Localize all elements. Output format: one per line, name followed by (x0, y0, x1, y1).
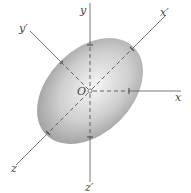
z-axis-outer (16, 133, 48, 165)
ellipsoid-diagram: O y z′ x x′ z y′ (0, 0, 191, 193)
label-z-prime: z′ (84, 181, 94, 193)
label-x-prime: x′ (160, 6, 169, 19)
origin-marker (88, 89, 92, 93)
label-z: z (10, 162, 17, 175)
x-prime-axis-outer (132, 15, 166, 49)
y-prime-axis-outer (30, 31, 61, 62)
label-y-prime: y′ (18, 22, 28, 35)
label-origin: O (77, 85, 86, 98)
label-x: x (175, 91, 182, 104)
label-y: y (79, 4, 87, 17)
